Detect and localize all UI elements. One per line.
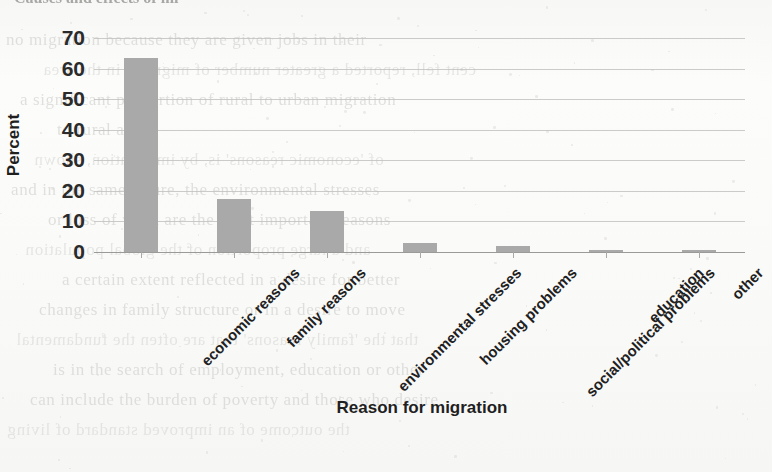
gridline — [94, 99, 745, 100]
bar — [310, 211, 344, 252]
x-category-label: other — [727, 264, 766, 303]
x-tick — [606, 252, 607, 258]
x-category-label: housing problems — [476, 264, 580, 368]
gridline — [94, 191, 745, 192]
gridline — [94, 221, 745, 222]
y-tick-label: 20 — [62, 179, 85, 203]
gridline — [94, 69, 745, 70]
migration-reasons-bar-chart: Percent 706050403020100 economic reasons… — [0, 0, 772, 472]
x-tick — [513, 252, 514, 258]
x-tick — [234, 252, 235, 258]
y-tick-label: 60 — [62, 57, 85, 81]
plot-area: 706050403020100 economic reasonsfamily r… — [94, 38, 745, 252]
y-tick-label: 10 — [62, 209, 85, 233]
y-tick-label: 70 — [62, 26, 85, 50]
y-tick-label: 40 — [62, 118, 85, 142]
y-tick-label: 50 — [62, 87, 85, 111]
y-tick-label: 0 — [73, 240, 85, 264]
x-axis-title: Reason for migration — [0, 398, 772, 418]
x-tick — [141, 252, 142, 258]
x-category-label: economic reasons — [197, 264, 302, 369]
bar — [217, 199, 251, 253]
x-axis-title-text: Reason for migration — [337, 398, 508, 417]
x-tick — [327, 252, 328, 258]
y-tick-label: 30 — [62, 148, 85, 172]
gridline — [94, 160, 745, 161]
bar — [403, 243, 437, 252]
bar — [124, 58, 158, 252]
y-axis-title: Percent — [4, 114, 24, 176]
x-tick — [420, 252, 421, 258]
gridline — [94, 38, 745, 39]
gridline — [94, 130, 745, 131]
x-tick — [699, 252, 700, 258]
